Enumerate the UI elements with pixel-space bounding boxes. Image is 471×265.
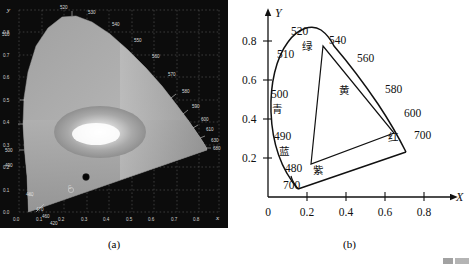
svg-text:0.8: 0.8 — [193, 217, 200, 222]
svg-text:590: 590 — [192, 104, 200, 109]
svg-text:560: 560 — [357, 52, 375, 64]
svg-text:0.4: 0.4 — [103, 217, 110, 222]
svg-text:0.8: 0.8 — [3, 30, 10, 35]
svg-text:紫: 紫 — [313, 164, 323, 176]
svg-text:0.6: 0.6 — [242, 74, 257, 86]
svg-text:600: 600 — [201, 117, 209, 122]
chart-a-gamut-fill — [0, 0, 228, 228]
svg-text:0.2: 0.2 — [242, 152, 257, 164]
figure-page: 520 530 540 550 560 570 580 590 600 610 … — [0, 0, 471, 265]
chart-b-x-tick-labels: 0 0.2 0.4 0.6 0.8 — [265, 206, 431, 218]
svg-text:700: 700 — [414, 129, 432, 141]
svg-text:0.3: 0.3 — [81, 217, 88, 222]
chart-a-x-tick-labels: 0.0 0.1 0.2 0.3 0.4 0.5 0.6 0.7 0.8 — [13, 217, 200, 222]
svg-text:0.4: 0.4 — [242, 113, 257, 125]
chart-a-y-tick-labels: 0.0 0.1 0.2 0.3 0.4 0.5 0.6 0.7 0.8 — [3, 30, 10, 215]
svg-text:570: 570 — [168, 72, 176, 77]
svg-text:480: 480 — [26, 192, 34, 197]
svg-text:0.8: 0.8 — [242, 35, 257, 47]
svg-text:420: 420 — [50, 221, 58, 226]
svg-text:530: 530 — [88, 10, 96, 15]
svg-text:0.6: 0.6 — [148, 217, 155, 222]
svg-text:0.6: 0.6 — [378, 206, 393, 218]
chart-a-x-axis-label: x — [215, 214, 220, 222]
svg-text:610: 610 — [206, 127, 214, 132]
chart-b-wavelength-labels: 520 540 560 580 600 700 510 500 490 480 … — [271, 25, 432, 191]
svg-text:青: 青 — [272, 103, 282, 115]
svg-text:0.4: 0.4 — [339, 206, 354, 218]
svg-text:480: 480 — [285, 162, 303, 174]
svg-text:540: 540 — [112, 22, 120, 27]
svg-text:0.2: 0.2 — [300, 206, 315, 218]
chart-a-y-axis-label: y — [6, 6, 11, 14]
scan-artifact — [443, 258, 469, 264]
svg-text:0.3: 0.3 — [3, 143, 10, 148]
svg-text:0.2: 0.2 — [3, 165, 10, 170]
svg-text:蓝: 蓝 — [279, 145, 290, 157]
caption-b: (b) — [228, 238, 471, 250]
svg-text:500: 500 — [271, 88, 289, 100]
svg-text:600: 600 — [404, 107, 422, 119]
svg-text:580: 580 — [385, 83, 403, 95]
svg-text:0.5: 0.5 — [126, 217, 133, 222]
svg-text:0.1: 0.1 — [36, 217, 43, 222]
chart-a-svg: 520 530 540 550 560 570 580 590 600 610 … — [0, 0, 228, 228]
svg-text:550: 550 — [134, 38, 142, 43]
chart-b-svg: 520 540 560 580 600 700 510 500 490 480 … — [228, 0, 471, 232]
svg-text:520: 520 — [291, 25, 309, 37]
svg-text:630: 630 — [211, 138, 219, 143]
svg-text:680: 680 — [213, 146, 221, 151]
svg-text:540: 540 — [329, 34, 347, 46]
svg-text:500: 500 — [5, 148, 13, 153]
chart-b-y-axis-label: Y — [275, 6, 283, 20]
svg-text:560: 560 — [152, 54, 160, 59]
chart-b-x-axis-label: X — [455, 190, 464, 204]
svg-text:0.7: 0.7 — [171, 217, 178, 222]
svg-text:490: 490 — [274, 130, 292, 142]
svg-text:绿: 绿 — [302, 40, 313, 52]
svg-text:460: 460 — [42, 214, 50, 219]
chart-b-gamut-triangle — [311, 46, 394, 164]
svg-text:0: 0 — [265, 206, 271, 218]
svg-text:580: 580 — [182, 89, 190, 94]
svg-text:470: 470 — [36, 207, 44, 212]
svg-text:0.1: 0.1 — [3, 188, 10, 193]
svg-text:520: 520 — [60, 5, 68, 10]
svg-text:0.0: 0.0 — [13, 217, 20, 222]
svg-text:0.5: 0.5 — [3, 98, 10, 103]
svg-text:0.8: 0.8 — [417, 206, 432, 218]
svg-text:0.4: 0.4 — [3, 120, 10, 125]
chart-b-cie-linedrawing: 520 540 560 580 600 700 510 500 490 480 … — [228, 0, 471, 232]
svg-text:700: 700 — [283, 179, 301, 191]
chart-a-cie-photographic: 520 530 540 550 560 570 580 590 600 610 … — [0, 0, 228, 228]
svg-text:红: 红 — [388, 131, 399, 143]
svg-text:0.6: 0.6 — [3, 75, 10, 80]
caption-a: (a) — [0, 238, 228, 250]
svg-text:黄: 黄 — [339, 84, 349, 96]
svg-text:0.2: 0.2 — [58, 217, 65, 222]
svg-text:0.7: 0.7 — [3, 53, 10, 58]
svg-text:0.0: 0.0 — [3, 210, 10, 215]
chart-a-sample-point — [83, 174, 90, 181]
chart-b-y-tick-labels: 0.2 0.4 0.6 0.8 — [242, 35, 257, 164]
svg-text:510: 510 — [277, 48, 295, 60]
